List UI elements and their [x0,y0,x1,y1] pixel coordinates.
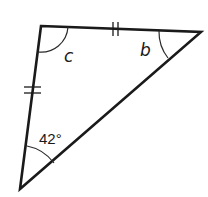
angle-arc-b [159,31,168,58]
triangle-diagram: c b 42° [0,0,208,197]
angle-arc-42 [27,146,54,163]
triangle-outline [20,26,201,189]
angle-label-42: 42° [39,130,62,147]
angle-label-c: c [64,46,74,66]
angle-label-b: b [140,40,151,60]
